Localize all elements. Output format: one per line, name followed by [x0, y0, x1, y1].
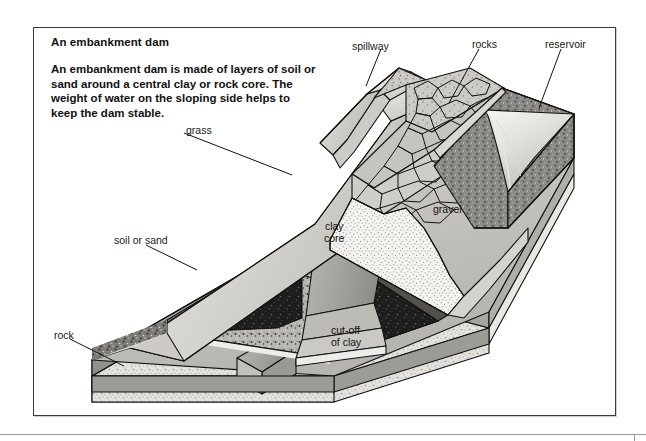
label-cutoff-line1: cut-off: [331, 325, 361, 337]
label-clay-core-line2: core: [324, 233, 344, 245]
label-clay-core: clay core: [324, 221, 344, 244]
label-clay-core-line1: clay: [324, 221, 344, 233]
label-rocks: rocks: [472, 38, 497, 50]
figure-page: An embankment dam An embankment dam is m…: [0, 0, 646, 441]
label-cutoff-line2: of clay: [331, 337, 361, 349]
label-rock: rock: [54, 329, 74, 341]
caption-block: An embankment dam An embankment dam is m…: [51, 36, 319, 120]
label-reservoir: reservoir: [545, 38, 586, 50]
figure-frame: An embankment dam An embankment dam is m…: [33, 27, 616, 416]
footer-divider: [0, 434, 646, 435]
label-soil-or-sand: soil or sand: [114, 234, 168, 246]
description-text: An embankment dam is made of layers of s…: [51, 62, 319, 120]
page-title: An embankment dam: [51, 36, 319, 48]
label-spillway: spillway: [352, 40, 389, 52]
label-cut-off-of-clay: cut-off of clay: [331, 325, 361, 348]
footer-divider-tick: [634, 434, 646, 441]
label-gravel: gravel: [433, 203, 462, 215]
label-grass: grass: [186, 124, 212, 136]
